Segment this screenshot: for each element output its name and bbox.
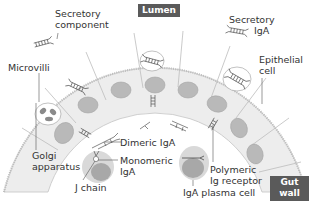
label-secretory-component: Secretory component [55,8,109,30]
label-monomeric-iga: Monomeric IgA [120,155,173,177]
label-secretory-iga: Secretory IgA [229,14,275,36]
label-dimeric-iga: Dimeric IgA [120,137,175,148]
label-polymeric-ig-receptor: Polymeric Ig receptor [210,164,262,186]
plasma-cell-right [179,146,209,180]
label-epithelial-cell: Epithelial cell [259,54,303,76]
label-iga-plasma-cell: IgA plasma cell [183,187,255,198]
label-j-chain: J chain [75,182,107,193]
golgi-vesicle [35,103,61,125]
j-chain-icon [93,156,98,161]
label-microvilli: Microvilli [8,62,50,73]
lumen-tag: Lumen [138,4,180,17]
gut-wall-line2: wall [270,188,309,199]
gut-wall-line1: Gut [270,177,309,188]
plasma-cell-left [82,151,114,183]
gut-wall-tag: Gut wall [270,176,309,201]
label-golgi-apparatus: Golgi apparatus [32,150,80,172]
